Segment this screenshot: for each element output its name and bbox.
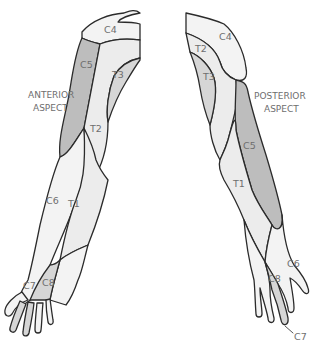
anterior-label-c5: C5 (80, 59, 93, 70)
anterior-label-t1: T1 (67, 198, 80, 209)
anterior-label-c8: C8 (42, 277, 55, 288)
posterior-label-t3: T3 (202, 71, 215, 82)
posterior-label-t2: T2 (194, 43, 207, 54)
posterior-heading-line2: ASPECT (264, 104, 299, 114)
posterior-heading-line1: POSTERIOR (254, 91, 306, 101)
posterior-label-c8: C8 (268, 273, 281, 284)
anterior-heading-line2: ASPECT (33, 103, 68, 113)
anterior-finger-little (46, 299, 53, 324)
anterior-label-c7: C7 (23, 280, 36, 291)
posterior-c7-leader-line (285, 326, 293, 333)
anterior-finger-ring (35, 303, 43, 333)
anterior-label-t2: T2 (89, 123, 102, 134)
anterior-label-t3: T3 (111, 69, 124, 80)
anterior-label-c4: C4 (104, 24, 117, 35)
posterior-arm (186, 13, 309, 333)
anterior-heading-line1: ANTERIOR (28, 90, 74, 100)
dermatome-diagram: ANTERIOR ASPECT C4 C5 T3 T2 C6 T1 C7 C8 … (0, 0, 320, 349)
posterior-label-c6: C6 (287, 258, 300, 269)
posterior-label-c7: C7 (294, 331, 307, 342)
posterior-label-c5: C5 (243, 140, 256, 151)
anterior-label-c6: C6 (46, 195, 59, 206)
posterior-label-c4: C4 (219, 31, 232, 42)
posterior-label-t1: T1 (232, 178, 245, 189)
